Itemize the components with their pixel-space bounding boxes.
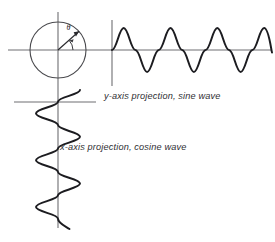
theta-label: θ — [67, 23, 71, 32]
cosine-wave-caption: x-axis projection, cosine wave — [59, 142, 187, 152]
figure-background — [0, 0, 275, 242]
sine-wave-caption: y-axis projection, sine wave — [103, 91, 221, 101]
unit-circle-projection-figure: θ y-axis projection, sine wave x-axis pr… — [0, 0, 275, 242]
diagram-canvas: θ y-axis projection, sine wave x-axis pr… — [0, 0, 275, 242]
